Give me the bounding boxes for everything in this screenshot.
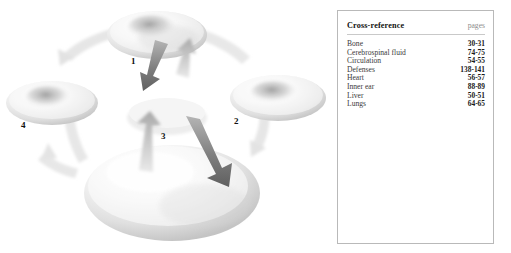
figure-panel: 1 2 3 4 [0,0,330,253]
step-label-3: 3 [161,132,166,141]
disc-shape-4 [6,81,98,125]
cross-reference-row[interactable]: Inner ear88-89 [347,83,485,92]
cross-reference-title: Cross-reference [347,21,404,30]
step-label-2: 2 [234,117,239,126]
step-label-1: 1 [131,57,136,66]
cycle-diagram-illustration [0,0,330,253]
cross-reference-header: Cross-reference pages [347,21,485,33]
cross-reference-topic: Lungs [347,100,366,109]
step-label-4: 4 [21,121,26,130]
header-divider [347,34,485,35]
cross-reference-row[interactable]: Liver50-51 [347,92,485,101]
cross-reference-panel: Cross-reference pages Bone30-31Cerebrosp… [337,10,494,244]
cross-reference-row[interactable]: Defenses138-141 [347,66,485,75]
cross-reference-pages-header: pages [468,21,485,30]
disc-shape-2 [230,75,326,121]
cross-reference-pages: 64-65 [468,100,485,109]
cross-reference-list: Bone30-31Cerebrospinal fluid74-75Circula… [347,40,485,109]
cross-reference-row[interactable]: Lungs64-65 [347,100,485,109]
